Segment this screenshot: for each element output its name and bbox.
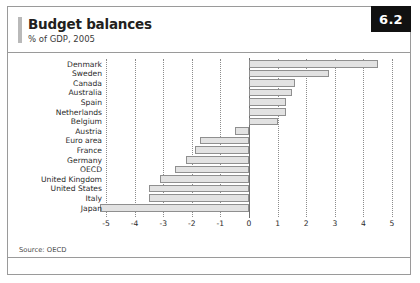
x-tick-label--5: -5 [96, 219, 116, 228]
chart-header: Budget balances % of GDP, 2005 6.2 [8, 7, 410, 53]
x-tick-label-0: 0 [239, 219, 259, 228]
x-tick-label-3: 3 [325, 219, 345, 228]
page-title: Budget balances [28, 17, 152, 32]
x-axis: -5-4-3-2-1012345 [8, 53, 412, 230]
plot-area: DenmarkSwedenCanadaAustraliaSpainNetherl… [8, 53, 412, 230]
title-accent-bar [18, 17, 22, 43]
chart-subtitle: % of GDP, 2005 [28, 34, 95, 44]
chart-figure: Budget balances % of GDP, 2005 6.2 Denma… [7, 6, 411, 275]
x-tick-label-2: 2 [296, 219, 316, 228]
x-tick-label--3: -3 [153, 219, 173, 228]
x-tick-label-5: 5 [382, 219, 402, 228]
x-tick-label-4: 4 [353, 219, 373, 228]
x-tick-label--4: -4 [125, 219, 145, 228]
footer-divider [8, 257, 410, 258]
figure-number-badge: 6.2 [371, 6, 411, 32]
x-tick-label--2: -2 [182, 219, 202, 228]
x-tick-label--1: -1 [210, 219, 230, 228]
x-tick-label-1: 1 [268, 219, 288, 228]
source-note: Source: OECD [19, 246, 66, 254]
